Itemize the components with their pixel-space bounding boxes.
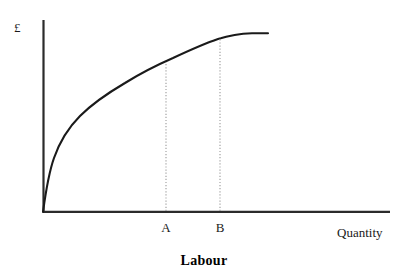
- marker-label-a: A: [156, 221, 176, 234]
- figure-caption: Labour: [0, 253, 408, 269]
- marker-label-b: B: [210, 221, 230, 234]
- y-axis-label: £: [14, 21, 21, 34]
- x-axis-label: Quantity: [337, 226, 383, 239]
